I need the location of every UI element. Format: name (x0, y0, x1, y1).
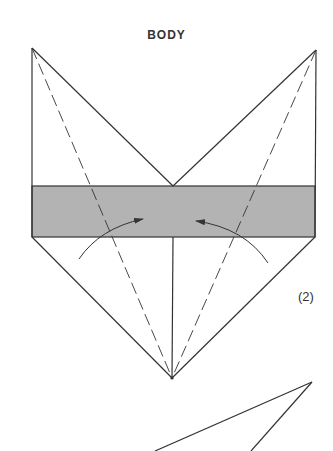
partial-next-diagram (155, 382, 312, 451)
center-crease (172, 237, 173, 378)
apex-point (170, 376, 173, 379)
shaded-band (32, 186, 315, 237)
fold-diagram (0, 0, 333, 451)
